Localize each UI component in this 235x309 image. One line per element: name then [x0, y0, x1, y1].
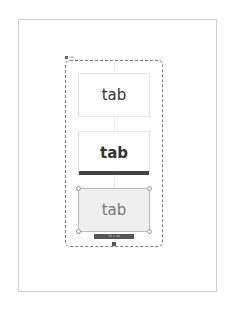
- add-variant-icon[interactable]: [112, 242, 116, 246]
- container-label-text: tab: [69, 55, 74, 59]
- tab-variant-default[interactable]: tab: [78, 73, 150, 117]
- tab-label: tab: [102, 86, 127, 104]
- tab-variant-active[interactable]: tab: [78, 131, 150, 175]
- resize-handle-top-right[interactable]: [147, 186, 152, 191]
- resize-handle-top-left[interactable]: [76, 186, 81, 191]
- component-icon: [65, 56, 68, 59]
- dimension-label: 72 × 44: [94, 234, 134, 239]
- tab-label: tab: [102, 201, 127, 219]
- tab-label: tab: [100, 144, 128, 162]
- resize-handle-bottom-left[interactable]: [76, 229, 81, 234]
- tab-variant-selected[interactable]: tab: [78, 188, 150, 232]
- active-indicator: [79, 171, 149, 175]
- container-label: tab: [65, 55, 74, 59]
- resize-handle-bottom-right[interactable]: [147, 229, 152, 234]
